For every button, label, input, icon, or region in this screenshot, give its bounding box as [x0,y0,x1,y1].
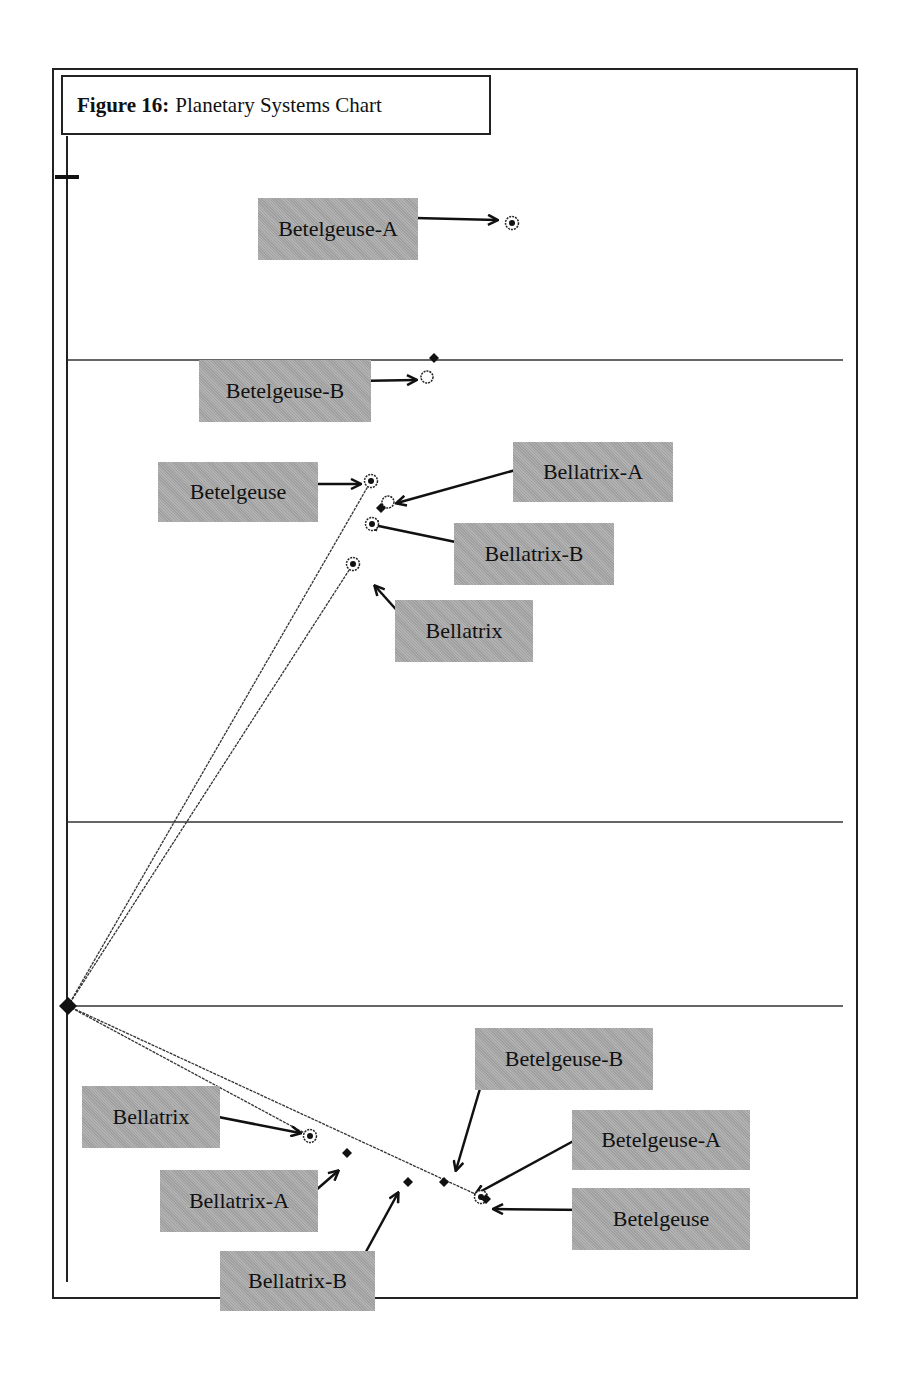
label-betelgeuse-a-top: Betelgeuse-A [258,198,418,260]
figure-stage: Figure 16: Planetary Systems Chart Betel… [0,0,899,1384]
bellatrix-a-top-arrow [397,466,530,503]
label-bellatrix-b-bottom: Bellatrix-B [220,1251,375,1311]
horizontal-gridlines [67,360,843,1006]
label-bellatrix-a-top: Bellatrix-A [513,442,673,502]
betelgeuse-a-top-arrow [415,218,497,220]
label-betelgeuse-bottom: Betelgeuse [572,1188,750,1250]
label-bellatrix-b-top: Bellatrix-B [454,523,614,585]
planetary-systems-chart [0,0,899,1384]
bellatrix-a-point-lower [342,1148,352,1158]
origin-to-Bellatrix-line [68,564,353,1006]
betelgeuse-a-point-upper-core [509,220,515,226]
label-bellatrix-bottom: Bellatrix [82,1086,220,1148]
label-betelgeuse-top: Betelgeuse [158,462,318,522]
betelgeuse-point-upper-core [368,478,374,484]
bellatrix-point-upper-core [350,561,356,567]
bellatrix-point-lower-core [307,1133,313,1139]
origin-marker [59,997,77,1015]
origin-to-Betelgeuse-line [68,481,371,1006]
bellatrix-b-point-lower [403,1177,413,1187]
betelgeuse-b-point-upper [421,371,433,383]
bellatrix-b-point-upper-core [369,521,375,527]
figure-title-number: Figure 16: [77,93,169,118]
label-bellatrix-top: Bellatrix [395,600,533,662]
betelgeuse-b-diamond--point-upper [429,353,439,363]
figure-title: Figure 16: Planetary Systems Chart [61,75,491,135]
label-betelgeuse-b-bottom: Betelgeuse-B [475,1028,653,1090]
label-betelgeuse-b-top: Betelgeuse-B [199,360,371,422]
label-betelgeuse-a-bottom: Betelgeuse-A [572,1110,750,1170]
figure-title-text: Planetary Systems Chart [175,93,381,118]
label-bellatrix-a-bottom: Bellatrix-A [160,1170,318,1232]
